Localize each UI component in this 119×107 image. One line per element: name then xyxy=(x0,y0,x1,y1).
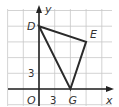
y-axis-label: y xyxy=(44,3,52,16)
x-axis-label: x xyxy=(105,94,113,107)
vertex-label-e: E xyxy=(90,28,97,41)
x-tick-label: 3 xyxy=(50,95,56,106)
coordinate-diagram: x y O 3 3 DEG xyxy=(0,0,119,107)
vertex-label-g: G xyxy=(68,94,77,107)
vertex-label-d: D xyxy=(27,20,35,33)
grid xyxy=(8,9,112,106)
y-axis-arrow-icon xyxy=(36,5,42,13)
x-axis-arrow-icon xyxy=(106,86,114,92)
y-tick-label: 3 xyxy=(28,68,34,79)
origin-label: O xyxy=(27,94,36,107)
